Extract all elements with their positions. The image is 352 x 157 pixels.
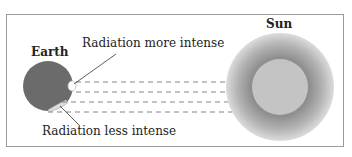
less-intense-label: Radiation less intense	[42, 124, 176, 138]
more-intense-label: Radiation more intense	[82, 36, 224, 50]
sun-label: Sun	[266, 17, 292, 31]
sun-icon	[226, 33, 334, 141]
pointer-less-intense	[60, 106, 80, 126]
earth-label: Earth	[31, 45, 69, 59]
pointer-more-intense	[74, 54, 116, 84]
earth-icon	[23, 61, 76, 112]
